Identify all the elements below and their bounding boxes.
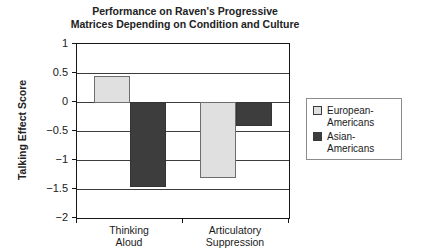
y-tick-mark [72,130,76,131]
gridline [77,131,289,132]
y-tick-label: 1 [30,37,68,49]
legend-swatch-european-americans [313,106,322,115]
x-category-label: ThinkingAloud [69,225,189,248]
legend-label-line: Asian-Americans [327,131,396,154]
legend-item-asian-americans: Asian-Americans [312,131,396,154]
gridline [77,160,289,161]
x-category-label-line: Articulatory [175,225,295,237]
chart-title-line: Matrices Depending on Condition and Cult… [40,18,330,31]
bar-asian-americans-articulatory-suppression [236,102,272,126]
x-tick-mark [182,219,183,223]
y-tick-mark [72,188,76,189]
y-tick-mark [72,43,76,44]
bar-european-americans-articulatory-suppression [200,102,236,178]
y-tick-label: −1 [30,153,68,165]
legend: European- Americans Asian-Americans [306,98,402,160]
legend-swatch-asian-americans [313,132,322,141]
plot-area [76,43,290,219]
x-tick-mark [288,219,289,223]
chart-title: Performance on Raven's Progressive Matri… [40,5,330,30]
x-category-label-line: Thinking [69,225,189,237]
legend-item-european-americans: European- Americans [312,105,396,128]
x-category-label: ArticulatorySuppression [175,225,295,248]
y-tick-mark [72,217,76,218]
x-category-label-line: Aloud [69,237,189,249]
x-tick-mark [76,219,77,223]
gridline [77,189,289,190]
bar-european-americans-thinking-aloud [94,76,130,103]
y-tick-label: −0.5 [30,124,68,136]
y-axis-title: Talking Effect Score [16,80,28,180]
bar-chart: Performance on Raven's Progressive Matri… [0,0,423,251]
y-tick-mark [72,72,76,73]
y-tick-mark [72,159,76,160]
legend-label-line: Americans [327,117,374,129]
legend-label-asian-americans: Asian-Americans [327,131,396,154]
y-tick-label: −2 [30,211,68,223]
chart-title-line: Performance on Raven's Progressive [40,5,330,18]
legend-label-line: European- [327,105,374,117]
legend-label-european-americans: European- Americans [327,105,374,128]
y-tick-mark [72,101,76,102]
gridline [77,73,289,74]
y-tick-label: −1.5 [30,182,68,194]
x-category-label-line: Suppression [175,237,295,249]
bar-asian-americans-thinking-aloud [130,102,166,187]
y-tick-label: 0.5 [30,66,68,78]
y-tick-label: 0 [30,95,68,107]
